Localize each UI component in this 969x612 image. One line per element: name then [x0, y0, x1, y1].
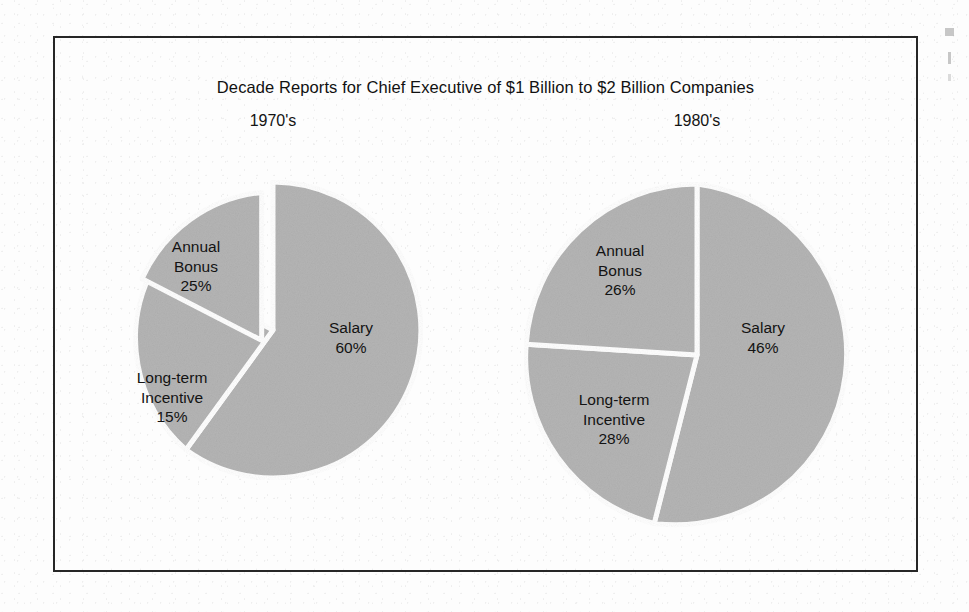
pie-chart-1980s — [524, 182, 870, 528]
decade-label-1970s: 1970's — [193, 112, 353, 130]
scanned-page: Decade Reports for Chief Executive of $1… — [0, 0, 969, 612]
chart-title: Decade Reports for Chief Executive of $1… — [53, 78, 918, 97]
scan-artifact-mark — [948, 52, 951, 64]
pie-chart-1970s — [123, 180, 423, 480]
pie-slice-1980s-annual-bonus — [526, 184, 697, 355]
decade-label-1980s: 1980's — [617, 112, 777, 130]
scan-artifact-mark — [948, 74, 951, 81]
scan-artifact-mark — [945, 28, 954, 36]
